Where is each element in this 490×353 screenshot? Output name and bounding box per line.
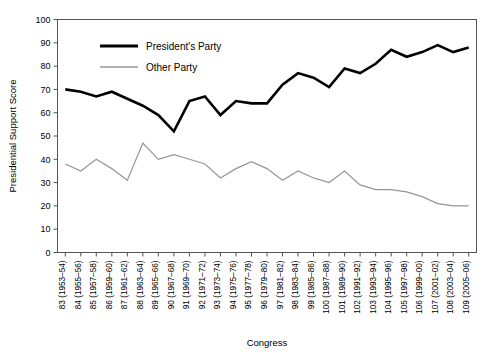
y-tick-label: 100: [35, 15, 50, 25]
y-axis-ticks: 0102030405060708090100: [35, 15, 57, 258]
x-axis-title: Congress: [247, 337, 288, 348]
x-tick-label: 85 (1957–58): [89, 260, 98, 309]
y-tick-label: 30: [40, 178, 50, 188]
x-tick-label: 90 (1967–68): [167, 260, 176, 309]
x-tick-label: 94 (1975–76): [229, 260, 238, 309]
x-tick-label: 102 (1991–92): [353, 260, 362, 314]
data-series-group: [65, 45, 468, 206]
y-tick-label: 0: [45, 248, 50, 258]
chart-legend: President's PartyOther Party: [100, 41, 221, 73]
y-tick-label: 40: [40, 155, 50, 165]
series-line-0: [65, 45, 468, 131]
legend-label-1: Other Party: [146, 62, 197, 73]
x-tick-label: 91 (1969–70): [182, 260, 191, 309]
x-tick-label: 88 (1963–64): [136, 260, 145, 309]
x-tick-label: 105 (1997–98): [400, 260, 409, 314]
x-tick-label: 97 (1981–82): [276, 260, 285, 309]
x-tick-label: 106 (1999–00): [415, 260, 424, 314]
series-line-1: [65, 143, 468, 206]
x-tick-label: 83 (1953–54): [58, 260, 67, 309]
x-tick-label: 104 (1995–96): [384, 260, 393, 314]
x-tick-label: 95 (1977–78): [244, 260, 253, 309]
y-tick-label: 60: [40, 108, 50, 118]
y-tick-label: 70: [40, 85, 50, 95]
x-tick-label: 100 (1987–88): [322, 260, 331, 314]
y-tick-label: 50: [40, 131, 50, 141]
y-tick-label: 80: [40, 61, 50, 71]
y-tick-label: 90: [40, 38, 50, 48]
x-tick-label: 92 (1971–72): [198, 260, 207, 309]
x-tick-label: 103 (1993–94): [369, 260, 378, 314]
y-tick-label: 20: [40, 201, 50, 211]
x-tick-label: 109 (2005–06): [462, 260, 471, 314]
chart-figure: 0102030405060708090100 83 (1953–54)84 (1…: [0, 0, 490, 353]
y-tick-label: 10: [40, 224, 50, 234]
x-tick-label: 107 (2001–02): [431, 260, 440, 314]
x-axis-ticks: 83 (1953–54)84 (1955–56)85 (1957–58)86 (…: [58, 253, 470, 314]
x-tick-label: 86 (1959–60): [105, 260, 114, 309]
x-tick-label: 101 (1989–90): [338, 260, 347, 314]
x-tick-label: 98 (1983–84): [291, 260, 300, 309]
x-tick-label: 99 (1985–86): [307, 260, 316, 309]
x-tick-label: 108 (2003–04): [446, 260, 455, 314]
x-tick-label: 96 (1979–80): [260, 260, 269, 309]
y-axis-title: Presidential Support Score: [7, 79, 18, 192]
x-tick-label: 93 (1973–74): [213, 260, 222, 309]
legend-label-0: President's Party: [146, 41, 221, 52]
presidential-support-line-chart: 0102030405060708090100 83 (1953–54)84 (1…: [0, 0, 490, 353]
x-tick-label: 89 (1965–66): [151, 260, 160, 309]
x-tick-label: 84 (1955–56): [74, 260, 83, 309]
x-tick-label: 87 (1961–62): [120, 260, 129, 309]
